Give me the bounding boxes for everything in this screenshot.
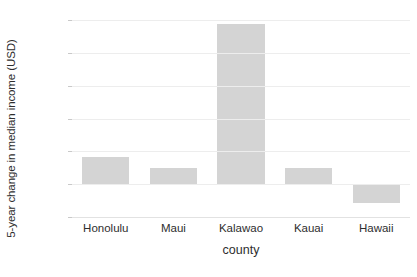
gridline — [72, 20, 410, 21]
bar-maui — [150, 168, 197, 184]
y-axis-tick-mark — [68, 53, 72, 54]
gridline — [72, 119, 410, 120]
y-axis-tick-mark — [68, 86, 72, 87]
x-axis-tick-label: Honolulu — [83, 222, 128, 234]
x-axis-tick-label: Maui — [161, 222, 186, 234]
y-axis-title: 5-year change in median income (USD) — [0, 0, 22, 277]
gridline — [72, 217, 410, 218]
gridline — [72, 53, 410, 54]
gridline — [72, 151, 410, 152]
plot-area: $25,000$20,000$15,000$10,000$5,000$0-$5,… — [72, 20, 410, 217]
bar-hawaii — [353, 184, 400, 203]
bar-chart: 5-year change in median income (USD) $25… — [0, 0, 417, 277]
x-axis-title: county — [72, 243, 410, 257]
gridline — [72, 86, 410, 87]
gridline — [72, 184, 410, 185]
x-axis-tick-label: Hawaii — [359, 222, 394, 234]
bar-honolulu — [82, 157, 129, 185]
x-axis-tick-labels: HonoluluMauiKalawaoKauaiHawaii — [72, 222, 410, 240]
y-axis-tick-mark — [68, 151, 72, 152]
y-axis-tick-mark — [68, 217, 72, 218]
bar-kauai — [285, 168, 332, 184]
x-axis-tick-label: Kalawao — [219, 222, 263, 234]
y-axis-tick-mark — [68, 20, 72, 21]
x-axis-tick-label: Kauai — [294, 222, 323, 234]
y-axis-tick-mark — [68, 184, 72, 185]
y-axis-tick-mark — [68, 119, 72, 120]
bar-kalawao — [217, 24, 264, 184]
